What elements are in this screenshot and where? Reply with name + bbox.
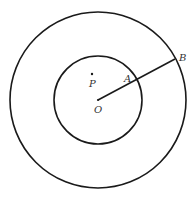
point-p-dot [91, 73, 93, 75]
radius-segment-OB [98, 59, 175, 100]
label-a: A [123, 73, 131, 84]
point-o-dot [97, 99, 99, 101]
label-p: P [88, 78, 96, 89]
label-b: B [178, 52, 186, 63]
label-o: O [94, 104, 102, 115]
concentric-circles-diagram: O P A B [0, 0, 195, 201]
